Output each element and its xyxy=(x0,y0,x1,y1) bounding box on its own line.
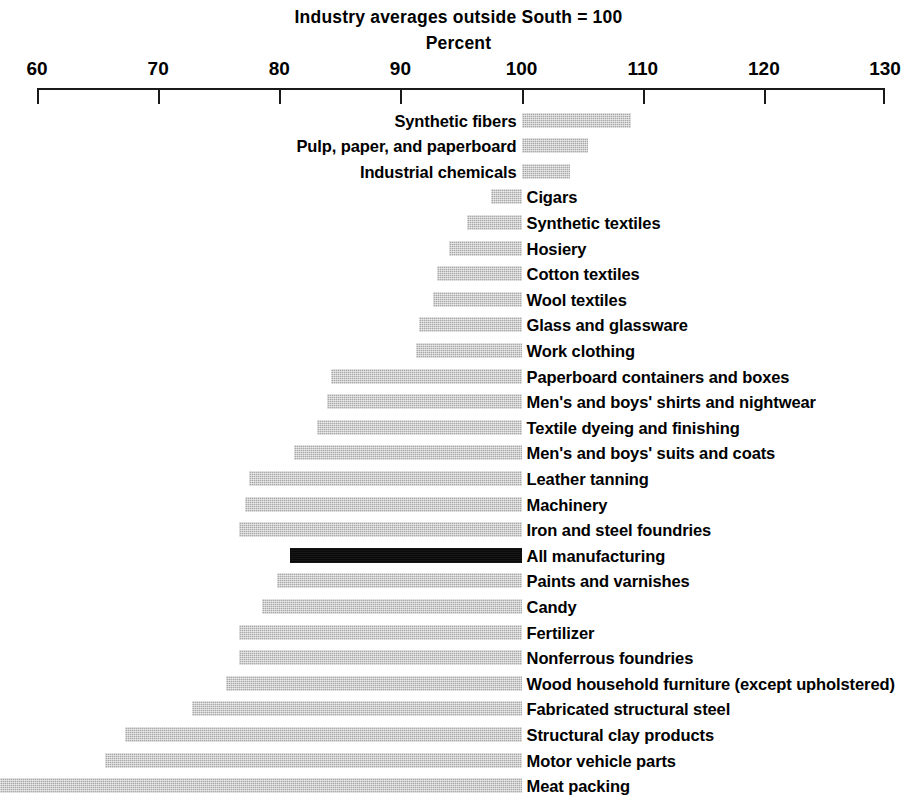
bar-row: Wool textiles xyxy=(0,288,917,314)
bar-label: Nonferrous foundries xyxy=(527,647,694,669)
bar xyxy=(433,292,521,307)
bar-label: Motor vehicle parts xyxy=(527,750,676,772)
bar-label: Hosiery xyxy=(527,238,587,260)
bar-row: Meat packing xyxy=(0,774,917,799)
bar xyxy=(522,113,631,128)
bar-label: Glass and glassware xyxy=(527,314,688,336)
bar-row: All manufacturing xyxy=(0,544,917,570)
bar xyxy=(125,727,521,742)
bar xyxy=(226,676,522,691)
bar xyxy=(239,625,521,640)
bar xyxy=(105,753,522,768)
bar xyxy=(192,701,522,716)
bar-label: Men's and boys' suits and coats xyxy=(527,442,776,464)
bar-row: Synthetic fibers xyxy=(0,109,917,135)
bar-row: Synthetic textiles xyxy=(0,211,917,237)
bar xyxy=(239,522,521,537)
bar-label: Paperboard containers and boxes xyxy=(527,366,790,388)
bar-label: Structural clay products xyxy=(527,724,714,746)
bar xyxy=(277,573,522,588)
bar-row: Men's and boys' shirts and nightwear xyxy=(0,390,917,416)
bar-label: Pulp, paper, and paperboard xyxy=(296,135,516,157)
bar-row: Nonferrous foundries xyxy=(0,646,917,672)
bar-label: Cigars xyxy=(527,186,578,208)
bar-row: Fabricated structural steel xyxy=(0,697,917,723)
bar-row: Glass and glassware xyxy=(0,313,917,339)
bar-label: Men's and boys' shirts and nightwear xyxy=(527,391,816,413)
bar xyxy=(249,471,522,486)
bar-row: Pulp, paper, and paperboard xyxy=(0,134,917,160)
bar xyxy=(317,420,522,435)
bar-row: Fertilizer xyxy=(0,621,917,647)
bar-row: Men's and boys' suits and coats xyxy=(0,441,917,467)
bar-label: Wool textiles xyxy=(527,289,627,311)
bar-label: Synthetic fibers xyxy=(394,110,516,132)
bar-label: Work clothing xyxy=(527,340,635,362)
bar-row: Industrial chemicals xyxy=(0,160,917,186)
bar-row: Cigars xyxy=(0,185,917,211)
bar-label: Paints and varnishes xyxy=(527,570,690,592)
bar xyxy=(239,650,521,665)
bar-label: Fertilizer xyxy=(527,622,595,644)
bar xyxy=(467,215,522,230)
bar-label: All manufacturing xyxy=(527,545,666,567)
bar xyxy=(522,138,589,153)
bar-row: Structural clay products xyxy=(0,723,917,749)
bar-highlight xyxy=(290,548,521,563)
bar-label: Meat packing xyxy=(527,775,630,797)
bar-label: Textile dyeing and finishing xyxy=(527,417,740,439)
bar-row: Hosiery xyxy=(0,237,917,263)
bar xyxy=(522,164,570,179)
bar xyxy=(294,445,522,460)
bar xyxy=(331,369,521,384)
bar xyxy=(437,266,522,281)
bar xyxy=(0,778,522,793)
bar-row: Work clothing xyxy=(0,339,917,365)
bar-label: Machinery xyxy=(527,494,608,516)
bar xyxy=(416,343,521,358)
bar-label: Fabricated structural steel xyxy=(527,698,731,720)
bar-label: Leather tanning xyxy=(527,468,649,490)
bar-row: Machinery xyxy=(0,493,917,519)
bar xyxy=(491,189,521,204)
bar-row: Candy xyxy=(0,595,917,621)
bar-row: Paints and varnishes xyxy=(0,569,917,595)
bar xyxy=(419,317,522,332)
bar xyxy=(449,241,522,256)
bar-label: Cotton textiles xyxy=(527,263,640,285)
bar-row: Cotton textiles xyxy=(0,262,917,288)
bar-row: Paperboard containers and boxes xyxy=(0,365,917,391)
bar-label: Synthetic textiles xyxy=(527,212,661,234)
bar-row: Wood household furniture (except upholst… xyxy=(0,672,917,698)
bar xyxy=(262,599,521,614)
bar-label: Candy xyxy=(527,596,577,618)
bar-row: Leather tanning xyxy=(0,467,917,493)
bar xyxy=(327,394,522,409)
bar-label: Iron and steel foundries xyxy=(527,519,712,541)
bar-label: Industrial chemicals xyxy=(360,161,517,183)
bar-row: Textile dyeing and finishing xyxy=(0,416,917,442)
bar-row: Motor vehicle parts xyxy=(0,749,917,775)
bar xyxy=(245,497,521,512)
bar-label: Wood household furniture (except upholst… xyxy=(527,673,895,695)
bar-row: Iron and steel foundries xyxy=(0,518,917,544)
